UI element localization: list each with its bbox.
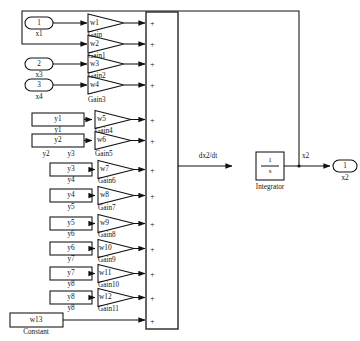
source-block-y2-label: y2 [42,150,49,158]
inport-2-label: x3 [35,71,42,79]
signal-label-dx2dt: dx2/dt [199,152,217,160]
integrator-label: Integrator [256,183,284,191]
inport-2-number: 2 [37,60,41,68]
gain-block-1-value: w2 [90,40,99,48]
svg-text:+: + [150,270,155,279]
source-block-y5-toplabel: y5 [67,203,74,211]
svg-text:+: + [150,294,155,303]
outport-1-label: x2 [341,174,348,182]
svg-text:+: + [150,60,155,69]
gain-block-0-value: w1 [90,19,99,27]
gain-block-7-label: Gain7 [98,204,116,212]
source-block-y8-value: y8 [67,293,74,301]
svg-text:+: + [150,245,155,254]
svg-text:+: + [150,40,155,49]
source-block-y7-value: y7 [67,269,74,277]
gain-block-4-label: Gain4 [95,127,113,135]
gain-block-6-label: Gain6 [98,177,116,185]
source-block-y1-value: y1 [54,115,61,123]
gain-block-8-label: Gain8 [98,231,116,239]
gain-block-3-value: w4 [90,81,99,89]
gain-block-11-label: Gain11 [98,305,119,313]
gain-block-0-label: Gain [88,31,102,39]
diagram-vector-layer: + + + + + + + + + + + + + [0,0,360,341]
integrator-numerator: 1 [268,156,272,164]
integrator-denominator: s [269,167,272,175]
source-block-y8-label: y8 [67,304,74,312]
svg-text:+: + [150,137,155,146]
source-block-y6-toplabel: y6 [67,230,74,238]
gain-block-11-value: w12 [99,293,112,301]
block-diagram-canvas: + + + + + + + + + + + + + 1 [0,0,360,341]
svg-text:+: + [150,192,155,201]
constant-block-value: w13 [30,316,43,324]
svg-text:+: + [150,220,155,229]
gain-block-10-label: Gain10 [98,281,119,289]
gain-block-10-value: w11 [99,269,111,277]
gain-block-2-value: w3 [90,60,99,68]
source-block-y5-value: y5 [67,219,74,227]
signal-junction-x2 [297,164,300,167]
signal-label-x2: x2 [302,152,309,160]
constant-block-label: Constant [23,328,49,336]
source-block-y4-value: y4 [67,191,74,199]
source-block-y3-value: y3 [67,165,74,173]
gain-block-9-value: w10 [99,244,112,252]
svg-text:+: + [150,116,155,125]
inport-3-number: 3 [37,81,41,89]
source-block-y4-toplabel: y4 [67,176,74,184]
gain-block-4-value: w5 [97,115,106,123]
gain-block-2-label: Gain2 [88,72,106,80]
outport-1-number: 1 [343,162,347,170]
inport-1-label: x1 [35,30,42,38]
source-block-y1-label: y1 [54,126,61,134]
source-block-y6-value: y6 [67,244,74,252]
source-block-y3-toplabel: y3 [67,150,74,158]
svg-text:+: + [150,19,155,28]
inport-3-label: x4 [35,93,42,101]
gain-block-7-value: w8 [100,191,109,199]
svg-text:+: + [150,166,155,175]
source-block-y2-value: y2 [54,136,61,144]
gain-block-5-label: Gain5 [95,150,113,158]
inport-1-number: 1 [37,19,41,27]
gain-block-8-value: w9 [100,219,109,227]
source-block-y7-toplabel: y7 [67,255,74,263]
source-block-y8-toplabel: y8 [67,280,74,288]
svg-text:+: + [150,317,155,326]
svg-text:+: + [150,81,155,90]
gain-block-6-value: w7 [100,165,109,173]
gain-block-9-label: Gain9 [98,256,116,264]
gain-block-3-label: Gain3 [88,96,106,104]
gain-block-5-value: w6 [97,136,106,144]
